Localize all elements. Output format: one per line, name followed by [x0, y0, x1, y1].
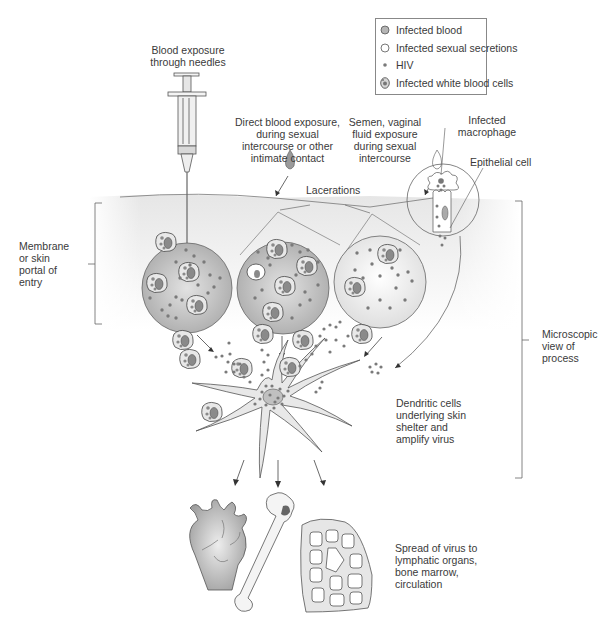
legend-item-infected-blood: Infected blood [380, 22, 462, 38]
label-needles: Blood exposure through needles [148, 44, 228, 68]
label-macrophage: Infected macrophage [452, 114, 522, 138]
label-spread: Spread of virus to lymphatic organs, bon… [395, 542, 515, 590]
label-lacerations: Lacerations [306, 184, 376, 196]
legend: Infected blood Infected sexual secretion… [375, 18, 487, 95]
infected-sexual-secretions-icon [380, 43, 390, 53]
infected-white-blood-cells-icon [380, 77, 390, 89]
secretion-drop-icon [433, 150, 442, 169]
free-wbc [173, 330, 193, 349]
label-semen: Semen, vaginal fluid exposure during sex… [340, 116, 430, 164]
infected-blood-icon [380, 25, 390, 35]
legend-item-infected-sexual-secretions: Infected sexual secretions [380, 40, 517, 56]
legend-item-infected-wbc: Infected white blood cells [380, 75, 513, 91]
label-direct-blood: Direct blood exposure, during sexual int… [225, 116, 350, 164]
label-dendritic: Dendritic cells underlying skin shelter … [396, 397, 496, 445]
sexual-secretions-circle [334, 236, 426, 328]
hiv-icon [380, 60, 390, 70]
circulation-mesh-icon [301, 519, 372, 612]
label-epithelial-cell: Epithelial cell [470, 156, 570, 168]
hiv-transmission-illustration [0, 0, 610, 626]
label-microscopic: Microscopic view of process [542, 328, 610, 364]
label-membrane: Membrane or skin portal of entry [19, 240, 79, 288]
lymph-node-icon [190, 500, 247, 590]
legend-item-hiv: HIV [380, 57, 414, 73]
